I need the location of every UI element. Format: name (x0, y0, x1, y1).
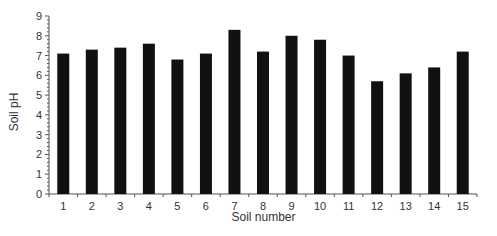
bar (228, 30, 240, 194)
bar (257, 52, 269, 194)
y-tick-label: 2 (36, 148, 42, 160)
bar-chart: 0123456789123456789101112131415 (0, 0, 497, 236)
y-tick-label: 3 (36, 129, 42, 141)
bar (286, 36, 298, 194)
bar (200, 54, 212, 194)
y-tick-label: 0 (36, 188, 42, 200)
x-axis-label: Soil number (0, 210, 497, 224)
y-tick-label: 4 (36, 109, 42, 121)
bar (314, 40, 326, 194)
bar (428, 67, 440, 194)
bar (143, 44, 155, 194)
bar (86, 50, 98, 194)
bar (114, 48, 126, 194)
y-tick-label: 1 (36, 168, 42, 180)
y-tick-label: 8 (36, 30, 42, 42)
y-tick-label: 5 (36, 89, 42, 101)
bar (400, 73, 412, 194)
y-tick-label: 9 (36, 10, 42, 22)
bar (57, 54, 69, 194)
bar (343, 56, 355, 194)
bar (371, 81, 383, 194)
y-axis-label: Soil pH (7, 82, 21, 142)
y-tick-label: 7 (36, 50, 42, 62)
y-tick-label: 6 (36, 69, 42, 81)
bar (457, 52, 469, 194)
bar (171, 60, 183, 194)
